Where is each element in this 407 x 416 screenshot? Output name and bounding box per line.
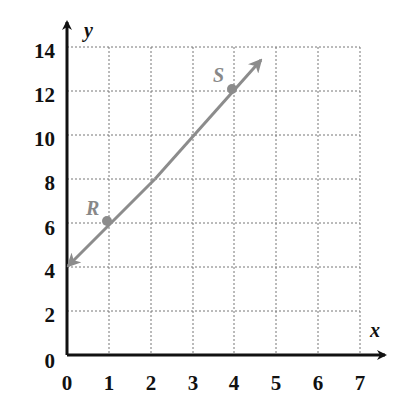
x-tick: 1: [104, 371, 115, 395]
coordinate-plane: R S y x 0 2 4 6 8 10 12 14 0 1 2 3 4 5 6…: [0, 0, 407, 416]
point-r-label: R: [85, 197, 99, 219]
x-tick: 3: [188, 371, 199, 395]
x-tick: 2: [146, 371, 157, 395]
x-tick: 7: [355, 371, 366, 395]
line-rs-upper: [155, 60, 261, 179]
y-tick: 10: [34, 127, 55, 151]
point-s: [227, 84, 237, 94]
grid: [67, 47, 360, 355]
point-r: [102, 216, 112, 226]
point-s-label: S: [213, 64, 224, 86]
y-tick: 6: [45, 216, 56, 240]
y-axis-label: y: [82, 19, 93, 42]
y-tick: 4: [45, 259, 56, 283]
x-tick-labels: 0 1 2 3 4 5 6 7: [62, 371, 366, 395]
x-tick: 5: [271, 371, 282, 395]
y-tick: 2: [45, 303, 56, 327]
y-tick: 0: [45, 349, 56, 373]
x-tick: 0: [62, 371, 73, 395]
y-tick: 12: [34, 83, 55, 107]
y-tick: 8: [45, 171, 56, 195]
x-tick: 6: [313, 371, 324, 395]
y-tick-labels: 0 2 4 6 8 10 12 14: [34, 39, 56, 373]
y-tick: 14: [34, 39, 56, 63]
x-tick: 4: [229, 371, 240, 395]
x-axis-label: x: [369, 319, 380, 341]
